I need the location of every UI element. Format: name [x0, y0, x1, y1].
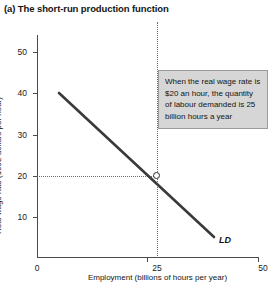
x-tick-label-0: 0	[22, 263, 52, 273]
equilibrium-point-marker	[153, 172, 160, 179]
panel-title: (a) The short-run production function	[4, 3, 169, 14]
plot-area: 50 40 30 20 10 0 25 50 LD	[37, 35, 261, 258]
y-tick-label-40: 40	[5, 88, 27, 98]
y-tick-label-20: 20	[5, 171, 27, 181]
curve-label-ld: LD	[219, 235, 231, 245]
y-axis-title: Real wage rate (1992 dollars per hour)	[0, 97, 3, 234]
y-tick-label-10: 10	[5, 212, 27, 222]
x-axis-title-wrap: Employment (billions of hours per year)	[0, 273, 277, 282]
figure-panel-a: (a) The short-run production function 50…	[0, 0, 277, 296]
x-tick-label-25: 25	[142, 263, 172, 273]
x-axis-title: Employment (billions of hours per year)	[50, 273, 227, 282]
annotation-callout: When the real wage rate is $20 an hour, …	[158, 70, 268, 129]
labour-demand-curve	[37, 35, 261, 258]
y-tick-label-50: 50	[5, 47, 27, 57]
y-tick-label-30: 30	[5, 130, 27, 140]
x-tick-label-50: 50	[248, 263, 277, 273]
